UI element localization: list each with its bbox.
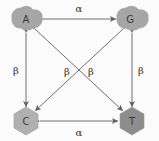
node-G-shape xyxy=(117,6,148,30)
node-T-shape xyxy=(120,107,144,135)
node-A[interactable]: A xyxy=(12,6,42,30)
substitution-model-diagram: A G C T α α β β β β xyxy=(0,0,159,141)
edge-label-G-C-beta: β xyxy=(88,66,94,77)
edge-label-C-T-alpha: α xyxy=(76,127,83,138)
node-C[interactable]: C xyxy=(14,107,38,135)
edge-label-A-T-beta: β xyxy=(64,66,70,77)
node-C-shape xyxy=(14,107,38,135)
node-G[interactable]: G xyxy=(117,6,148,30)
edge-label-G-T-beta: β xyxy=(138,65,144,76)
edge-label-A-G-alpha: α xyxy=(76,3,83,14)
edge-label-A-C-beta: β xyxy=(13,65,19,76)
node-A-shape xyxy=(12,6,42,30)
node-T[interactable]: T xyxy=(120,107,144,135)
diagram-canvas: A G C T α α β β β β xyxy=(0,0,159,141)
